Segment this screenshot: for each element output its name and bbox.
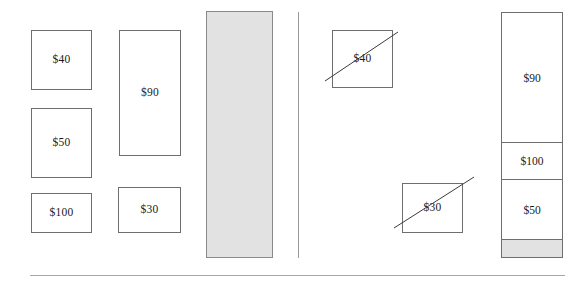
empty-knapsack: [206, 11, 273, 258]
item-value-label: $50: [53, 137, 71, 149]
item-value-label: $30: [141, 204, 159, 216]
item-value-label: $40: [53, 54, 71, 66]
item-box[interactable]: $30: [402, 183, 463, 233]
packed-knapsack: $90$100$50: [501, 12, 563, 258]
knapsack-segment[interactable]: [502, 239, 562, 257]
item-box[interactable]: $100: [31, 193, 92, 233]
item-value-label: $40: [354, 53, 372, 65]
item-value-label: $100: [50, 207, 74, 219]
knapsack-segment[interactable]: $50: [502, 179, 562, 239]
item-box[interactable]: $30: [118, 187, 181, 233]
item-box[interactable]: $40: [332, 30, 393, 88]
segment-value-label: $50: [523, 204, 540, 216]
bottom-rule: [30, 275, 565, 276]
item-value-label: $30: [424, 202, 442, 214]
knapsack-segment[interactable]: $100: [502, 142, 562, 179]
panel-divider: [298, 12, 299, 258]
item-value-label: $90: [141, 87, 159, 99]
segment-value-label: $100: [521, 155, 544, 167]
segment-value-label: $90: [523, 72, 540, 84]
knapsack-segment[interactable]: $90: [502, 13, 562, 142]
item-box[interactable]: $50: [31, 108, 92, 178]
item-box[interactable]: $90: [119, 30, 181, 156]
item-box[interactable]: $40: [31, 30, 92, 90]
diagram-canvas: $40$50$100$90$30 $40$30 $90$100$50: [0, 0, 578, 287]
